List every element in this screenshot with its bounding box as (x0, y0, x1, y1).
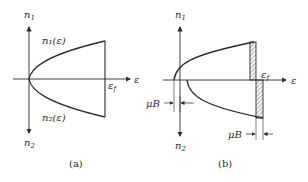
energy-axis-label: ε (291, 75, 296, 86)
upper-dos-curve (29, 41, 105, 79)
lower-dos-curve (187, 80, 263, 118)
n2-axis-label: n2 (24, 137, 35, 150)
panel-b-caption: (b) (218, 158, 232, 169)
upper-hatched-region (250, 42, 256, 80)
lower-dos-curve (29, 79, 105, 117)
upper-curve-label: n₁(ε) (42, 35, 66, 46)
energy-axis-label: ε (134, 74, 139, 85)
lower-curve-label: n₂(ε) (42, 112, 66, 123)
shift-left-label: μB (146, 98, 160, 109)
n1-axis-label: n1 (175, 9, 186, 22)
density-of-states-diagram: n1 n2 ε εf n₁(ε) n₂(ε) (a) μB μB n1 n2 ε… (0, 0, 308, 182)
panel-b: μB μB n1 n2 ε εf (b) (146, 9, 296, 169)
panel-a-caption: (a) (69, 158, 83, 169)
upper-dos-curve (174, 42, 254, 80)
fermi-energy-label: εf (108, 80, 117, 93)
n1-axis-label: n1 (24, 9, 35, 22)
panel-a: n1 n2 ε εf n₁(ε) n₂(ε) (a) (13, 9, 139, 169)
shift-right-label: μB (228, 129, 242, 140)
n2-axis-label: n2 (175, 140, 186, 153)
lower-hatched-region (256, 80, 263, 118)
